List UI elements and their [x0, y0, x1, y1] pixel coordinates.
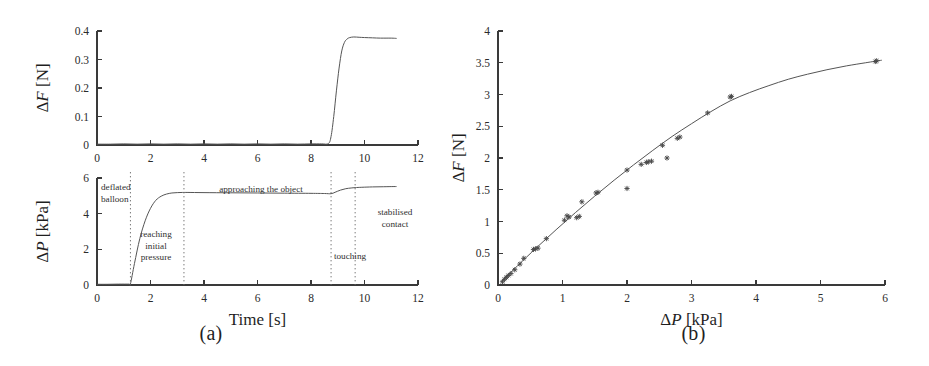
force-pressure-ytick-label: 2.5	[476, 120, 491, 132]
pressure-time-xtick-label: 6	[255, 292, 261, 304]
force-time-ylabel: ΔF [N]	[33, 63, 52, 112]
panel-b-force-pressure: 00.511.522.533.540123456ΔF [N]ΔP [kPa] (…	[452, 0, 929, 366]
data-point	[639, 162, 644, 167]
force-time-ytick-label: 0.1	[75, 111, 90, 123]
data-point	[677, 134, 682, 139]
pressure-time-subplot: 0246024681012ΔP [kPa]Time [s]deflatedbal…	[33, 172, 424, 329]
pressure-time-xtick-label: 2	[148, 292, 154, 304]
force-pressure-ytick-label: 2	[484, 152, 490, 164]
data-point	[512, 267, 517, 272]
data-point	[705, 110, 710, 115]
annotation-deflated-balloon: deflatedballoon	[101, 182, 131, 204]
pressure-time-ytick-label: 6	[83, 172, 89, 184]
svg-text:ΔF [N]: ΔF [N]	[33, 63, 52, 112]
data-point	[544, 236, 549, 241]
annotation-line: contact	[382, 219, 409, 229]
data-point	[874, 58, 879, 63]
force-pressure-ytick-label: 3.5	[476, 57, 491, 69]
force-pressure-ytick-label: 4	[484, 25, 490, 37]
force-time-axes	[97, 31, 418, 145]
force-time-curve	[97, 37, 397, 144]
annotation-line: reaching	[140, 229, 172, 239]
pressure-time-xtick-label: 12	[412, 292, 424, 304]
force-pressure-xtick-label: 1	[560, 292, 566, 304]
force-pressure-ytick-label: 1	[484, 216, 490, 228]
panel-b-plot-area: 00.511.522.533.540123456ΔF [N]ΔP [kPa]	[452, 0, 929, 320]
data-point	[579, 199, 584, 204]
force-pressure-ytick-label: 3	[484, 89, 490, 101]
data-point	[566, 214, 571, 219]
annotation-stabilised-contact: stabilisedcontact	[378, 207, 413, 229]
force-pressure-axes	[498, 31, 885, 285]
force-pressure-ytick-label: 0	[484, 279, 490, 291]
force-time-xtick-label: 2	[148, 152, 154, 164]
pressure-time-ytick-label: 0	[83, 279, 89, 291]
data-point	[517, 261, 522, 266]
data-point	[624, 186, 629, 191]
data-point	[562, 218, 567, 223]
pressure-time-ylabel: ΔP [kPa]	[33, 200, 52, 262]
annotation-line: touching	[334, 251, 367, 261]
pressure-time-xtick-label: 10	[359, 292, 371, 304]
panel-a-time-series: 00.10.20.30.4024681012ΔF [N]024602468101…	[0, 0, 452, 366]
force-pressure-xtick-label: 6	[882, 292, 888, 304]
force-pressure-scatter	[500, 58, 879, 284]
pressure-time-ytick-label: 4	[83, 208, 89, 220]
data-point	[508, 271, 513, 276]
annotation-line: stabilised	[378, 207, 413, 217]
pressure-time-xtick-label: 8	[308, 292, 314, 304]
force-time-xtick-label: 10	[359, 152, 371, 164]
force-pressure-xtick-label: 3	[689, 292, 695, 304]
force-time-ytick-label: 0	[83, 139, 89, 151]
panel-b-caption: (b)	[455, 322, 929, 345]
pressure-time-ytick-label: 2	[83, 243, 89, 255]
force-time-ytick-label: 0.2	[75, 82, 90, 94]
force-pressure-xtick-label: 2	[624, 292, 630, 304]
data-point	[595, 190, 600, 195]
force-pressure-xtick-label: 5	[818, 292, 824, 304]
data-point	[660, 143, 665, 148]
svg-text:ΔP [kPa]: ΔP [kPa]	[33, 200, 52, 262]
annotation-reaching-initial-pressure: reachinginitialpressure	[140, 229, 172, 262]
data-point	[521, 256, 526, 261]
pressure-time-xtick-label: 0	[94, 292, 100, 304]
force-time-ytick-label: 0.4	[75, 25, 90, 37]
data-point	[664, 155, 669, 160]
force-pressure-ylabel: ΔF [N]	[449, 133, 468, 182]
annotation-line: pressure	[141, 252, 172, 262]
annotation-approaching-the-object: approaching the object	[219, 184, 303, 194]
data-point	[649, 159, 654, 164]
annotation-line: initial	[145, 241, 167, 251]
panel-a-plot-area: 00.10.20.30.4024681012ΔF [N]024602468101…	[0, 0, 452, 320]
panel-a-caption: (a)	[0, 322, 437, 345]
annotation-line: approaching the object	[219, 184, 303, 194]
data-point	[729, 94, 734, 99]
force-pressure-ytick-label: 0.5	[476, 247, 491, 259]
force-time-ytick-label: 0.3	[75, 54, 90, 66]
force-time-xtick-label: 12	[412, 152, 424, 164]
annotation-touching: touching	[334, 251, 367, 261]
force-pressure-fit-curve	[501, 60, 882, 282]
force-time-xtick-label: 4	[201, 152, 207, 164]
annotation-line: balloon	[101, 194, 129, 204]
figure-root: 00.10.20.30.4024681012ΔF [N]024602468101…	[0, 0, 929, 366]
force-time-xtick-label: 6	[255, 152, 261, 164]
force-pressure-xtick-label: 0	[495, 292, 501, 304]
data-point	[624, 167, 629, 172]
data-point	[535, 246, 540, 251]
pressure-time-xtick-label: 4	[201, 292, 207, 304]
force-pressure-subplot: 00.511.522.533.540123456ΔF [N]ΔP [kPa]	[449, 25, 888, 329]
force-time-xtick-label: 0	[94, 152, 100, 164]
data-point	[577, 214, 582, 219]
force-time-xtick-label: 8	[308, 152, 314, 164]
force-pressure-xtick-label: 4	[753, 292, 759, 304]
svg-text:ΔF [N]: ΔF [N]	[449, 133, 468, 182]
force-time-subplot: 00.10.20.30.4024681012ΔF [N]	[33, 25, 424, 164]
force-pressure-ytick-label: 1.5	[476, 184, 491, 196]
annotation-line: deflated	[101, 182, 131, 192]
